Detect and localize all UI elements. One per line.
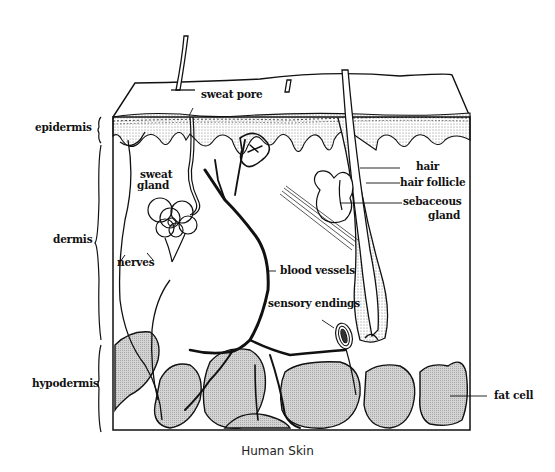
label-sweat-gland-line2: gland <box>137 180 169 191</box>
label-dermis: dermis <box>53 234 92 245</box>
label-fat-cell: fat cell <box>494 390 533 401</box>
label-hair-follicle: hair follicle <box>400 177 466 188</box>
label-blood-vessels: blood vessels <box>280 265 355 276</box>
label-nerves: nerves <box>117 257 154 268</box>
label-epidermis: epidermis <box>35 122 92 133</box>
label-sweat-pore: sweat pore <box>201 89 263 100</box>
label-sebaceous-line2: gland <box>428 210 460 221</box>
label-sensory-endings: sensory endings <box>268 298 360 309</box>
fat-cells <box>115 332 467 428</box>
label-sebaceous-line1: sebaceous <box>403 196 462 207</box>
label-hypodermis: hypodermis <box>32 378 99 389</box>
figure-caption: Human Skin <box>0 444 555 458</box>
label-hair: hair <box>416 161 439 172</box>
epidermis-layer <box>113 113 470 154</box>
